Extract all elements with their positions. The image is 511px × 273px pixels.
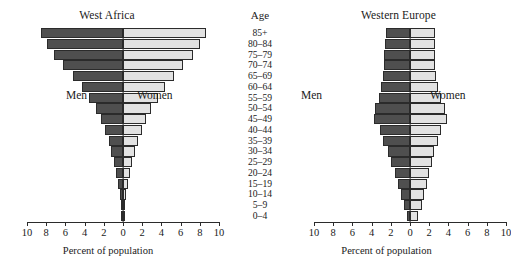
bar-women [123, 103, 151, 113]
x-axis-tick [333, 222, 334, 226]
bar-women [410, 211, 418, 221]
bar-women [410, 179, 427, 189]
x-axis-tick-label: 0 [407, 227, 412, 238]
bar-men [380, 125, 410, 135]
x-axis-tick [123, 222, 124, 226]
x-axis-tick-label: 4 [446, 227, 451, 238]
x-axis-tick-label: 10 [501, 227, 511, 238]
x-axis-tick [27, 222, 28, 226]
x-axis-tick-label: 8 [484, 227, 489, 238]
bar-women [123, 136, 138, 146]
series-label-men: Men [301, 89, 322, 101]
x-axis-tick [429, 222, 430, 226]
series-label-women: Women [137, 89, 172, 101]
bar-men [82, 82, 123, 92]
bar-women [123, 189, 126, 199]
bar-men [109, 136, 123, 146]
panel-west-africa: West Africa Men Women 1086420246810 Perc… [0, 0, 232, 273]
x-axis-tick [487, 222, 488, 226]
x-axis-tick-label: 4 [82, 227, 87, 238]
x-axis-tick [372, 222, 373, 226]
bar-women [410, 146, 434, 156]
bar-women [123, 146, 135, 156]
x-axis-tick [506, 222, 507, 226]
bar-women [123, 39, 200, 49]
bar-men [89, 93, 123, 103]
bar-women [410, 114, 447, 124]
bar-women [410, 28, 435, 38]
panel-western-europe: Western Europe Men Women 1086420246810 P… [288, 0, 497, 273]
age-band-label: 0–4 [232, 211, 288, 222]
series-label-women: Women [430, 89, 465, 101]
x-axis-tick [161, 222, 162, 226]
bar-men [96, 103, 123, 113]
panel-title-western-europe: Western Europe [294, 9, 503, 21]
bar-women [123, 179, 128, 189]
bar-women [410, 189, 424, 199]
bar-men [395, 168, 410, 178]
x-axis-tick-label: 6 [465, 227, 470, 238]
pyramid-plot-western-europe [314, 28, 506, 222]
bar-women [410, 200, 422, 210]
bar-men [63, 60, 123, 70]
x-axis-tick-label: 2 [101, 227, 106, 238]
bar-women [410, 103, 445, 113]
bar-men [385, 39, 410, 49]
age-axis-column: Age 85+80–8475–7970–7465–6960–6455–5950–… [232, 0, 288, 273]
bar-men [381, 82, 410, 92]
bar-women [410, 39, 435, 49]
x-axis-tick-label: 6 [63, 227, 68, 238]
x-axis-tick [200, 222, 201, 226]
age-band-labels: 85+80–8475–7970–7465–6960–6455–5950–5445… [232, 28, 288, 222]
x-axis-tick-label: 8 [331, 227, 336, 238]
x-axis-tick [391, 222, 392, 226]
series-label-men: Men [66, 89, 87, 101]
bar-men [388, 146, 410, 156]
bar-women [123, 157, 132, 167]
bar-women [123, 114, 146, 124]
x-axis-tick-label: 6 [178, 227, 183, 238]
x-axis-tick-label: 4 [159, 227, 164, 238]
bar-men [375, 103, 410, 113]
x-axis-tick [468, 222, 469, 226]
bar-men [54, 50, 123, 60]
x-axis-tick-label: 10 [214, 227, 225, 238]
x-axis-tick [181, 222, 182, 226]
x-axis-tick [219, 222, 220, 226]
bar-men [379, 93, 410, 103]
bar-men [383, 136, 410, 146]
center-axis-line [410, 28, 411, 222]
bar-women [410, 50, 435, 60]
x-axis-title-west-africa: Percent of population [0, 245, 224, 256]
bar-men [111, 146, 123, 156]
age-axis-title: Age [232, 9, 288, 21]
bar-women [123, 168, 130, 178]
x-axis-tick-label: 8 [44, 227, 49, 238]
bar-women [123, 60, 183, 70]
bar-men [47, 39, 123, 49]
bar-women [123, 71, 174, 81]
x-axis-tick-label: 4 [369, 227, 374, 238]
bar-men [383, 71, 410, 81]
bar-women [410, 60, 435, 70]
x-axis-tick-label: 0 [120, 227, 125, 238]
x-axis-tick-label: 2 [388, 227, 393, 238]
x-axis-tick-label: 2 [140, 227, 145, 238]
age-band-label: 80–84 [232, 39, 288, 50]
bar-women [123, 28, 206, 38]
bar-men [398, 179, 410, 189]
bar-men [41, 28, 123, 38]
age-band-label: 60–64 [232, 82, 288, 93]
x-axis-tick [46, 222, 47, 226]
bar-women [123, 50, 193, 60]
x-axis-tick [85, 222, 86, 226]
x-axis-tick-label: 10 [22, 227, 33, 238]
bar-women [410, 125, 441, 135]
bar-women [410, 168, 429, 178]
bar-men [386, 28, 410, 38]
x-axis-west-africa: 1086420246810 [27, 222, 219, 223]
x-axis-western-europe: 1086420246810 [314, 222, 506, 223]
bar-women [123, 125, 142, 135]
center-axis-line [123, 28, 124, 222]
